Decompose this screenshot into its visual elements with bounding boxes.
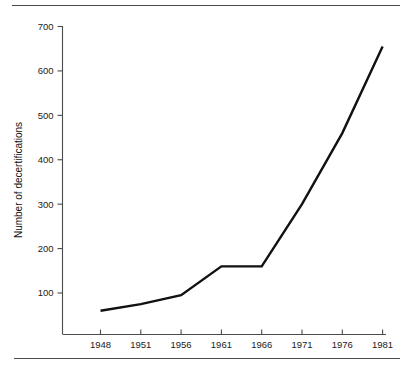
- y-axis-title: Number of decertifications: [13, 122, 24, 238]
- y-axis-tick-label: 300: [38, 199, 54, 210]
- y-axis-tick-label: 100: [38, 287, 54, 298]
- data-series-line: [101, 46, 383, 310]
- figure-container: 100200300400500600700 194819511956196119…: [0, 0, 411, 374]
- y-axis-tick-label: 400: [38, 154, 54, 165]
- x-axis-tick-label: 1971: [291, 339, 312, 350]
- line-chart: 100200300400500600700 194819511956196119…: [0, 0, 411, 374]
- x-axis-ticks: [101, 330, 383, 335]
- x-axis-tick-label: 1951: [130, 339, 151, 350]
- x-axis-tick-label: 1948: [90, 339, 111, 350]
- x-axis-tick-label: 1981: [372, 339, 393, 350]
- y-axis-tick-label: 700: [38, 21, 54, 32]
- x-axis-tick-label: 1956: [171, 339, 192, 350]
- y-axis-tick-label: 600: [38, 65, 54, 76]
- y-axis-ticks: [58, 27, 63, 294]
- y-axis-tick-label: 200: [38, 243, 54, 254]
- x-axis-tick-label: 1961: [211, 339, 232, 350]
- y-axis-tick-label: 500: [38, 110, 54, 121]
- x-axis-tick-label: 1976: [332, 339, 353, 350]
- x-axis-tick-label: 1966: [251, 339, 272, 350]
- y-axis-tick-labels: 100200300400500600700: [38, 21, 54, 299]
- x-axis-tick-labels: 19481951195619611966197119761981: [90, 339, 393, 350]
